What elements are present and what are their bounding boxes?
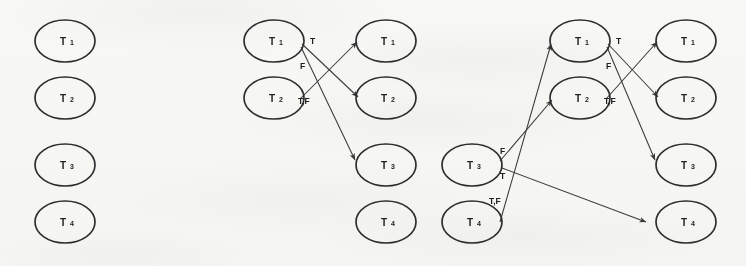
node-p3-left-t3: T 3 <box>442 144 502 186</box>
node-label-t1: T <box>681 36 687 47</box>
node-p2-left-t2: T 2 <box>244 77 304 119</box>
node-label-t1: T <box>60 36 66 47</box>
node-label-t2: T <box>381 93 387 104</box>
node-p3-left-t4: T 4 <box>442 201 502 243</box>
node-sublabel-t2: 2 <box>691 96 695 103</box>
node-sublabel-t3: 3 <box>477 163 481 170</box>
node-label-t1: T <box>381 36 387 47</box>
node-p2-left-t1: T 1 <box>244 20 304 62</box>
panel-3-long-edges <box>500 44 646 222</box>
edge-label-t2-t1: T,F <box>604 96 616 106</box>
edge-label-t1-t3: F <box>300 61 305 71</box>
node-p1-t1: T 1 <box>35 20 95 62</box>
node-label-t1: T <box>575 36 581 47</box>
panel-second-step: T 3 T 4 F T T,F T 1 <box>442 20 716 243</box>
node-sublabel-t1: 1 <box>691 39 695 46</box>
node-label-t2: T <box>681 93 687 104</box>
node-label-t1: T <box>269 36 275 47</box>
node-label-t3: T <box>381 160 387 171</box>
node-sublabel-t1: 1 <box>585 39 589 46</box>
node-label-t3: T <box>467 160 473 171</box>
node-label-t4: T <box>60 217 66 228</box>
node-label-t4: T <box>681 217 687 228</box>
node-label-t2: T <box>60 93 66 104</box>
edge-label-t4-t1: T,F <box>489 196 501 206</box>
node-sublabel-t4: 4 <box>391 220 395 227</box>
node-sublabel-t1: 1 <box>70 39 74 46</box>
node-sublabel-t2: 2 <box>70 96 74 103</box>
node-label-t4: T <box>381 217 387 228</box>
node-sublabel-t4: 4 <box>691 220 695 227</box>
node-label-t2: T <box>575 93 581 104</box>
node-p2-right-t4: T 4 <box>356 201 416 243</box>
node-sublabel-t3: 3 <box>391 163 395 170</box>
node-p1-t2: T 2 <box>35 77 95 119</box>
scanned-page: T 1 T 2 T 3 T 4 <box>0 0 746 266</box>
panel-initial-state: T 1 T 2 T 3 T 4 <box>35 20 95 243</box>
node-p3-right-t3: T 3 <box>656 144 716 186</box>
node-sublabel-t4: 4 <box>70 220 74 227</box>
node-label-t3: T <box>60 160 66 171</box>
precedence-graph-diagram: T 1 T 2 T 3 T 4 <box>0 0 746 266</box>
edge-label-t1-t3: F <box>606 61 611 71</box>
node-p2-right-t2: T 2 <box>356 77 416 119</box>
node-sublabel-t4: 4 <box>477 220 481 227</box>
node-p3-mid-t2: T 2 <box>550 77 610 119</box>
node-sublabel-t3: 3 <box>70 163 74 170</box>
node-p1-t3: T 3 <box>35 144 95 186</box>
node-p1-t4: T 4 <box>35 201 95 243</box>
node-p2-right-t1: T 1 <box>356 20 416 62</box>
node-sublabel-t1: 1 <box>279 39 283 46</box>
node-p2-right-t3: T 3 <box>356 144 416 186</box>
node-sublabel-t1: 1 <box>391 39 395 46</box>
node-sublabel-t2: 2 <box>279 96 283 103</box>
node-sublabel-t2: 2 <box>585 96 589 103</box>
edge-t3-to-t4 <box>502 168 646 222</box>
edge-label-t1-t2: T <box>616 36 622 46</box>
node-label-t4: T <box>467 217 473 228</box>
node-p3-right-t4: T 4 <box>656 201 716 243</box>
edge-label-t3-t4: T <box>500 171 506 181</box>
edge-label-t3-t2: F <box>500 146 505 156</box>
edge-label-t2-t1: T,F <box>298 96 310 106</box>
node-sublabel-t3: 3 <box>691 163 695 170</box>
node-sublabel-t2: 2 <box>391 96 395 103</box>
edge-label-t1-t2: T <box>310 36 316 46</box>
node-p3-right-t2: T 2 <box>656 77 716 119</box>
node-p3-right-t1: T 1 <box>656 20 716 62</box>
node-label-t2: T <box>269 93 275 104</box>
panel-first-step: T 1 T 2 T F T,F T 1 T 2 <box>244 20 416 243</box>
node-label-t3: T <box>681 160 687 171</box>
node-p3-mid-t1: T 1 <box>550 20 610 62</box>
edge-t4-to-t1 <box>500 44 551 222</box>
